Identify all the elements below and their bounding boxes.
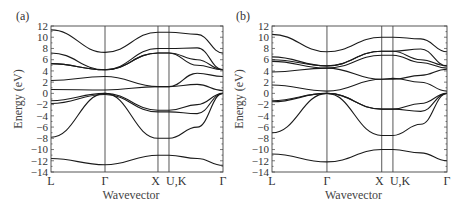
panel-label: (b) — [236, 9, 250, 23]
band-panel-b: (b)Energy (eV)121086420−2−4−6−8−10−12−14… — [232, 9, 451, 202]
y-tick-label: 0 — [43, 87, 49, 99]
band-panel-a: (a)Energy (eV)121086420−2−4−6−8−10−12−14… — [11, 9, 227, 202]
k-point-label: Γ — [102, 174, 109, 188]
energy-band — [51, 30, 223, 53]
energy-band — [272, 69, 447, 91]
k-point-label: Γ — [444, 174, 451, 188]
y-axis-label: Energy (eV) — [11, 69, 25, 128]
y-tick-label: −6 — [36, 121, 48, 133]
y-tick-label: 4 — [43, 65, 49, 77]
y-axis-label: Energy (eV) — [232, 69, 246, 128]
k-point-label: U,K — [390, 174, 411, 188]
y-tick-label: −6 — [257, 121, 269, 133]
k-point-label: Γ — [323, 174, 330, 188]
y-tick-label: 8 — [264, 42, 270, 54]
y-tick-label: −4 — [36, 110, 48, 122]
y-tick-label: −10 — [252, 143, 270, 155]
k-point-label: L — [268, 174, 275, 188]
energy-band — [272, 55, 447, 68]
k-point-label: X — [151, 174, 160, 188]
k-point-label: X — [375, 174, 384, 188]
y-tick-label: −4 — [257, 110, 269, 122]
y-tick-label: 8 — [43, 42, 49, 54]
y-tick-label: −12 — [31, 155, 48, 167]
x-axis-label: Wavevector — [103, 188, 160, 202]
y-tick-label: −12 — [252, 155, 269, 167]
energy-band — [272, 93, 447, 111]
y-tick-label: 4 — [264, 65, 270, 77]
y-tick-label: 2 — [43, 76, 49, 88]
energy-band — [272, 93, 447, 135]
energy-band — [272, 51, 447, 66]
y-tick-label: −8 — [257, 132, 269, 144]
y-tick-label: −14 — [252, 166, 270, 178]
energy-band — [51, 84, 223, 90]
k-point-label: U,K — [166, 174, 187, 188]
plot-frame — [272, 26, 447, 172]
y-tick-label: −10 — [31, 143, 49, 155]
y-tick-label: −14 — [31, 166, 49, 178]
y-tick-label: 6 — [264, 53, 270, 65]
energy-band — [272, 93, 447, 109]
x-axis-label: Wavevector — [325, 188, 382, 202]
y-tick-label: −8 — [36, 132, 48, 144]
y-tick-label: 10 — [258, 31, 270, 43]
energy-band — [272, 49, 447, 66]
energy-band — [51, 93, 223, 113]
y-tick-label: 12 — [37, 20, 48, 32]
y-tick-label: −2 — [257, 98, 269, 110]
panel-label: (a) — [16, 9, 29, 23]
y-tick-label: 10 — [37, 31, 49, 43]
y-tick-label: 6 — [43, 53, 49, 65]
energy-band — [51, 93, 223, 110]
energy-band — [272, 150, 447, 162]
energy-band — [51, 93, 223, 138]
y-tick-label: 0 — [264, 87, 270, 99]
y-tick-label: 12 — [258, 20, 269, 32]
k-point-label: Γ — [220, 174, 227, 188]
y-tick-label: 2 — [264, 76, 270, 88]
band-structure-figure: (a)Energy (eV)121086420−2−4−6−8−10−12−14… — [0, 0, 464, 207]
k-point-label: L — [47, 174, 54, 188]
y-tick-label: −2 — [36, 98, 48, 110]
energy-band — [51, 155, 223, 165]
